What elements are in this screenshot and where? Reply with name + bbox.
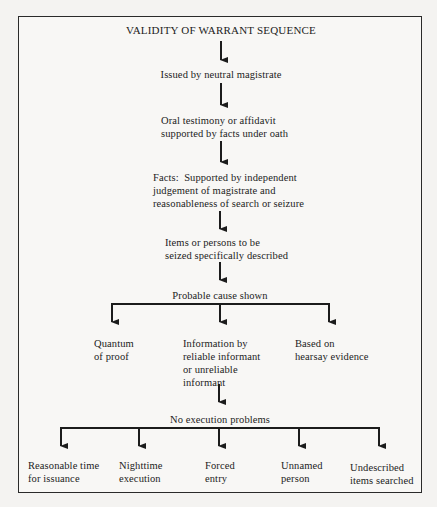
exec-reasonable-time-line-2: for issuance: [28, 472, 80, 485]
node-items-line-1: Items or persons to be: [165, 236, 260, 249]
exec-nighttime-line-2: execution: [119, 472, 161, 485]
exec-reasonable-time-line-1: Reasonable time: [28, 459, 99, 472]
branch-quantum-line-1: Quantum: [94, 337, 134, 350]
branch-information-line-2: reliable informant: [183, 350, 260, 363]
node-oral-line-1: Oral testimony or affidavit: [161, 114, 276, 127]
exec-undescribed-items-line-2: items searched: [350, 474, 414, 487]
node-no-execution-problems: No execution problems: [170, 413, 270, 426]
branch-information-line-4: informant: [183, 376, 225, 389]
node-issued: Issued by neutral magistrate: [161, 68, 282, 81]
exec-forced-entry-line-1: Forced: [205, 459, 235, 472]
branch-information-line-1: Information by: [183, 337, 248, 350]
node-facts-line-2: judgement of magistrate and: [153, 184, 276, 197]
exec-unnamed-person-line-2: person: [281, 472, 310, 485]
node-facts-line-3: reasonableness of search or seizure: [153, 197, 304, 210]
exec-nighttime-line-1: Nighttime: [119, 459, 162, 472]
node-items-line-2: seized specifically described: [165, 249, 288, 262]
branch-hearsay-line-1: Based on: [295, 337, 335, 350]
branch-quantum-line-2: of proof: [94, 350, 129, 363]
exec-unnamed-person-line-1: Unnamed: [281, 459, 323, 472]
branch-hearsay-line-2: hearsay evidence: [295, 350, 369, 363]
diagram-title: VALIDITY OF WARRANT SEQUENCE: [126, 24, 316, 37]
node-probable-cause: Probable cause shown: [172, 289, 267, 302]
exec-undescribed-items-line-1: Undescribed: [350, 461, 404, 474]
exec-forced-entry-line-2: entry: [205, 472, 227, 485]
node-oral-line-2: supported by facts under oath: [161, 127, 288, 140]
branch-information-line-3: or unreliable: [183, 363, 238, 376]
node-facts-line-1: Facts: Supported by independent: [153, 171, 297, 184]
